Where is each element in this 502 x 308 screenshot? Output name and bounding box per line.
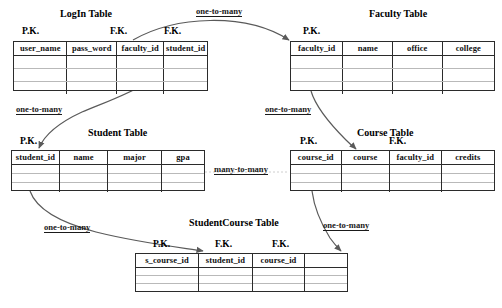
table-cell[interactable] (253, 284, 305, 292)
table-cell[interactable] (253, 268, 305, 276)
table-row[interactable] (14, 56, 207, 69)
table-cell[interactable] (393, 69, 443, 81)
column-header-s-course-id: s_course_id (136, 254, 199, 267)
course-table[interactable]: course_id course faculty_id credits (290, 150, 495, 191)
table-cell[interactable] (393, 56, 443, 68)
table-cell[interactable] (390, 174, 442, 183)
table-cell[interactable] (342, 183, 391, 192)
table-cell[interactable] (442, 165, 494, 174)
table-cell[interactable] (442, 174, 494, 183)
table-row[interactable] (291, 56, 494, 69)
table-cell[interactable] (291, 165, 342, 174)
table-cell[interactable] (12, 165, 60, 174)
table-cell[interactable] (67, 69, 116, 81)
table-cell[interactable] (60, 174, 108, 183)
table-cell[interactable] (136, 276, 199, 284)
table-cell[interactable] (162, 165, 204, 174)
table-cell[interactable] (67, 56, 116, 68)
table-header-row: student_id name major gpa (12, 151, 204, 165)
column-header-course: course (342, 151, 391, 164)
column-header-course-id: course_id (291, 151, 342, 164)
table-cell[interactable] (291, 183, 342, 192)
table-row[interactable] (291, 69, 494, 82)
table-row[interactable] (12, 183, 204, 192)
login-table[interactable]: user_name pass_word faculty_id student_i… (13, 41, 208, 91)
table-cell[interactable] (108, 174, 162, 183)
table-cell[interactable] (14, 82, 67, 94)
table-cell[interactable] (393, 82, 443, 94)
table-cell[interactable] (164, 82, 207, 94)
studentcourse-table[interactable]: s_course_id student_id course_id (135, 253, 348, 292)
table-cell[interactable] (14, 56, 67, 68)
table-cell[interactable] (443, 56, 494, 68)
table-cell[interactable] (343, 69, 393, 81)
column-header-faculty-id: faculty_id (390, 151, 442, 164)
table-cell[interactable] (117, 56, 165, 68)
table-row[interactable] (136, 284, 347, 292)
column-header-student-id: student_id (164, 42, 207, 55)
studentcourse-pk-label: P.K. (153, 239, 170, 249)
table-row[interactable] (12, 174, 204, 183)
table-cell[interactable] (291, 174, 342, 183)
table-row[interactable] (136, 276, 347, 284)
table-cell[interactable] (162, 183, 204, 192)
table-cell[interactable] (443, 82, 494, 94)
table-cell[interactable] (136, 268, 199, 276)
table-row[interactable] (291, 82, 494, 94)
table-row[interactable] (291, 174, 494, 183)
table-cell[interactable] (108, 165, 162, 174)
table-row[interactable] (14, 82, 207, 94)
table-cell[interactable] (390, 183, 442, 192)
login-table-title: LogIn Table (60, 8, 112, 19)
table-cell[interactable] (67, 82, 116, 94)
faculty-table-title: Faculty Table (369, 8, 427, 19)
table-cell[interactable] (60, 183, 108, 192)
connector-student-studentcourse (30, 191, 203, 251)
table-cell[interactable] (343, 82, 393, 94)
table-cell[interactable] (291, 69, 343, 81)
table-cell[interactable] (291, 56, 343, 68)
table-cell[interactable] (14, 69, 67, 81)
column-header-pass-word: pass_word (67, 42, 116, 55)
table-cell[interactable] (291, 82, 343, 94)
student-table[interactable]: student_id name major gpa (11, 150, 205, 191)
table-cell[interactable] (442, 183, 494, 192)
table-cell[interactable] (305, 268, 347, 276)
table-cell[interactable] (12, 174, 60, 183)
table-cell[interactable] (253, 276, 305, 284)
table-cell[interactable] (117, 82, 165, 94)
table-cell[interactable] (199, 284, 253, 292)
table-cell[interactable] (12, 183, 60, 192)
table-cell[interactable] (390, 165, 442, 174)
table-cell[interactable] (342, 165, 391, 174)
connector-faculty-course (311, 91, 356, 149)
faculty-table[interactable]: faculty_id name office college (290, 41, 495, 91)
column-header-gpa: gpa (162, 151, 204, 164)
table-row[interactable] (291, 165, 494, 174)
table-cell[interactable] (342, 174, 391, 183)
table-cell[interactable] (136, 284, 199, 292)
table-cell[interactable] (343, 56, 393, 68)
table-row[interactable] (291, 183, 494, 192)
table-cell[interactable] (443, 69, 494, 81)
column-header-course-id: course_id (253, 254, 305, 267)
table-cell[interactable] (305, 276, 347, 284)
table-row[interactable] (14, 69, 207, 82)
table-cell[interactable] (162, 174, 204, 183)
table-cell[interactable] (305, 284, 347, 292)
student-pk-label: P.K. (20, 136, 37, 146)
table-cell[interactable] (108, 183, 162, 192)
table-row[interactable] (136, 268, 347, 276)
table-cell[interactable] (164, 69, 207, 81)
table-cell[interactable] (117, 69, 165, 81)
table-row[interactable] (12, 165, 204, 174)
table-cell[interactable] (199, 276, 253, 284)
course-pk-label: P.K. (300, 136, 317, 146)
table-cell[interactable] (164, 56, 207, 68)
studentcourse-fk-course-label: F.K. (272, 239, 289, 249)
table-cell[interactable] (199, 268, 253, 276)
column-header-credits: credits (442, 151, 494, 164)
studentcourse-table-title: StudentCourse Table (189, 217, 279, 228)
table-cell[interactable] (60, 165, 108, 174)
table-header-row: user_name pass_word faculty_id student_i… (14, 42, 207, 56)
